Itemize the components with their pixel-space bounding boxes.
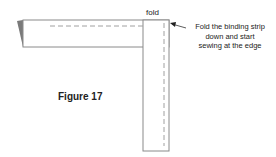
instruction-line: Fold the binding strip — [186, 22, 274, 32]
folded-corner — [17, 20, 23, 47]
vertical-binding-strip — [143, 20, 169, 151]
figure-caption: Figure 17 — [58, 91, 102, 102]
instruction-line: sewing at the edge — [186, 41, 274, 51]
pointer-arrow-head — [170, 22, 176, 27]
instruction-line: down and start — [186, 32, 274, 42]
fold-label: fold — [146, 8, 159, 17]
instruction-note: Fold the binding strip down and start se… — [186, 22, 274, 51]
